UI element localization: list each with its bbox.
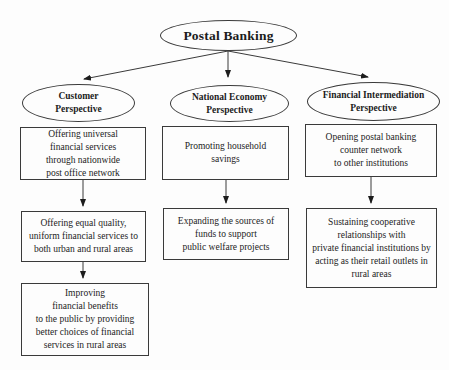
financial-box-counter-network: Opening postal banking counter network t… xyxy=(305,124,437,177)
root-node-postal-banking: Postal Banking xyxy=(160,20,297,51)
postal-banking-flowchart: Postal Banking Customer Perspective Nati… xyxy=(0,0,449,370)
customer-box-improving-benefits: Improving financial benefits to the publ… xyxy=(21,283,149,356)
node-customer-perspective: Customer Perspective xyxy=(22,84,135,122)
node-national-economy-perspective: National Economy Perspective xyxy=(170,85,289,122)
customer-box-universal-services: Offering universal financial services th… xyxy=(20,127,146,180)
economy-box-household-savings: Promoting household savings xyxy=(162,126,289,180)
customer-box-equal-quality: Offering equal quality, uniform financia… xyxy=(21,211,146,262)
financial-box-cooperative-relationships: Sustaining cooperative relationships wit… xyxy=(306,208,437,288)
economy-box-welfare-funds: Expanding the sources of funds to suppor… xyxy=(163,208,289,260)
edge-root-to-financial xyxy=(228,51,368,77)
node-financial-intermediation-perspective: Financial Intermediation Perspective xyxy=(307,82,440,121)
edge-root-to-customer xyxy=(84,51,228,79)
